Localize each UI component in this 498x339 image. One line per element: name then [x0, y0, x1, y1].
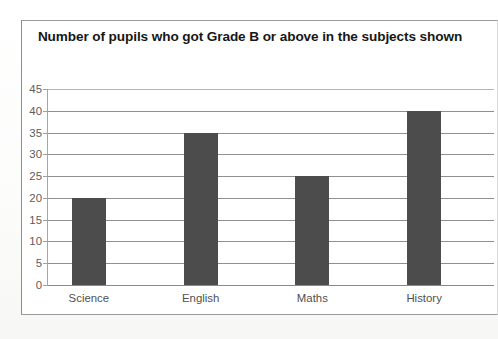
gridline-0 — [47, 285, 494, 286]
y-tick-label-0: 0 — [18, 279, 42, 291]
chart-title: Number of pupils who got Grade B or abov… — [30, 27, 470, 46]
bar-english — [184, 133, 218, 285]
y-tick-mark-0 — [43, 285, 48, 286]
y-tick-label-5: 5 — [18, 257, 42, 269]
y-tick-mark-35 — [43, 133, 48, 134]
chart-title-line-1: Number of pupils who got Grade B or abov… — [38, 29, 358, 44]
y-tick-mark-5 — [43, 263, 48, 264]
y-tick-label-35: 35 — [18, 127, 42, 139]
x-tick-label-science: Science — [69, 292, 110, 304]
y-tick-label-20: 20 — [18, 192, 42, 204]
bar-history — [407, 111, 441, 285]
gridline-45 — [47, 89, 494, 90]
x-tick-label-english: English — [182, 292, 219, 304]
chart-screenshot: Number of pupils who got Grade B or abov… — [0, 0, 498, 339]
y-tick-label-15: 15 — [18, 214, 42, 226]
y-tick-mark-30 — [43, 154, 48, 155]
y-tick-mark-25 — [43, 176, 48, 177]
y-tick-mark-10 — [43, 241, 48, 242]
y-tick-label-30: 30 — [18, 148, 42, 160]
y-tick-mark-20 — [43, 198, 48, 199]
bar-science — [72, 198, 106, 285]
x-tick-label-maths: Maths — [297, 292, 328, 304]
y-tick-label-25: 25 — [18, 170, 42, 182]
bar-maths — [295, 176, 329, 285]
plot-area — [47, 89, 494, 285]
y-tick-mark-40 — [43, 111, 48, 112]
y-tick-label-10: 10 — [18, 235, 42, 247]
y-tick-mark-45 — [43, 89, 48, 90]
y-tick-label-45: 45 — [18, 83, 42, 95]
x-tick-label-history: History — [406, 292, 441, 304]
y-tick-label-40: 40 — [18, 105, 42, 117]
y-tick-mark-15 — [43, 220, 48, 221]
chart-title-line-2: subjects shown — [362, 29, 463, 44]
y-axis-tick-labels: 454035302520151050 — [18, 89, 42, 285]
